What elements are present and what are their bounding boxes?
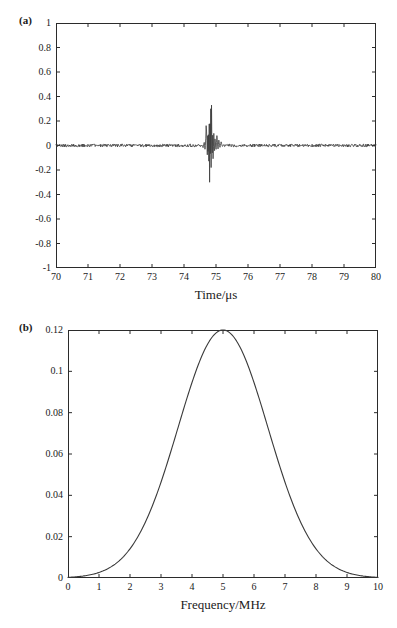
x-tick-label: 77 xyxy=(265,272,295,282)
y-tick-label: -0.6 xyxy=(9,214,51,224)
y-tick-label: -0.8 xyxy=(9,239,51,249)
x-tick-label: 73 xyxy=(137,272,167,282)
y-tick-label: -0.4 xyxy=(9,190,51,200)
x-tick-label: 2 xyxy=(115,582,145,592)
x-tick-label: 74 xyxy=(169,272,199,282)
x-tick-label: 5 xyxy=(208,582,238,592)
y-tick-label: 0.08 xyxy=(21,408,63,418)
x-tick-label: 80 xyxy=(361,272,391,282)
y-tick-label: 0.04 xyxy=(21,490,63,500)
y-tick-label: 0.8 xyxy=(9,43,51,53)
y-tick-label: 0.4 xyxy=(9,92,51,102)
x-tick-label: 0 xyxy=(53,582,83,592)
x-tick-label: 9 xyxy=(332,582,362,592)
y-tick-label: 0.06 xyxy=(21,449,63,459)
voltage-waveform-trace xyxy=(56,105,376,182)
y-tick-label: 0.6 xyxy=(9,67,51,77)
x-tick-label: 76 xyxy=(233,272,263,282)
panel-a-x-axis-title: Time/μs xyxy=(56,287,376,303)
y-tick-label: 0 xyxy=(9,141,51,151)
panel-a-canvas xyxy=(0,0,397,310)
y-tick-label: 0 xyxy=(21,573,63,583)
x-tick-label: 7 xyxy=(270,582,300,592)
y-tick-label: -0.2 xyxy=(9,165,51,175)
x-tick-label: 71 xyxy=(73,272,103,282)
x-tick-label: 75 xyxy=(201,272,231,282)
x-tick-label: 78 xyxy=(297,272,327,282)
y-tick-label: 0.12 xyxy=(21,325,63,335)
y-tick-label: 0.2 xyxy=(9,116,51,126)
x-tick-label: 8 xyxy=(301,582,331,592)
panel-b-x-axis-title: Frequency/MHz xyxy=(68,597,378,613)
y-tick-label: 0.02 xyxy=(21,532,63,542)
y-tick-label: 1 xyxy=(9,18,51,28)
x-tick-label: 72 xyxy=(105,272,135,282)
x-tick-label: 79 xyxy=(329,272,359,282)
x-tick-label: 10 xyxy=(363,582,393,592)
panel-a-voltage-time: (a) 7071727374757677787980-1-0.8-0.6-0.4… xyxy=(0,0,397,310)
x-tick-label: 70 xyxy=(41,272,71,282)
x-tick-label: 3 xyxy=(146,582,176,592)
panel-b-system-influence-factor: (b) 01234567891000.020.040.060.080.10.12… xyxy=(0,310,397,628)
x-tick-label: 4 xyxy=(177,582,207,592)
y-tick-label: 0.1 xyxy=(21,366,63,376)
y-tick-label: -1 xyxy=(9,263,51,273)
x-tick-label: 1 xyxy=(84,582,114,592)
x-tick-label: 6 xyxy=(239,582,269,592)
system-influence-factor-curve xyxy=(68,330,378,577)
